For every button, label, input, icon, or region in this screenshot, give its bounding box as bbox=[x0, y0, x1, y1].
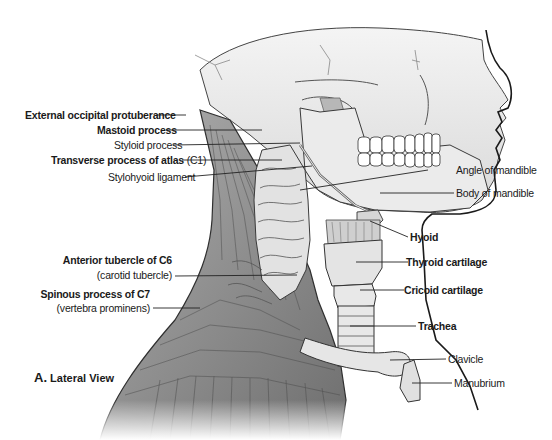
transverse-process-suffix: (C1) bbox=[184, 154, 206, 166]
label-vertebra-prominens: (vertebra prominens) bbox=[30, 302, 150, 314]
label-stylohyoid-ligament: Stylohyoid ligament bbox=[108, 171, 195, 183]
label-spinous-process-c7: Spinous process of C7 bbox=[30, 288, 150, 300]
label-clavicle: Clavicle bbox=[448, 353, 483, 365]
figure-caption: A. Lateral View bbox=[34, 370, 114, 385]
label-thyroid-cartilage: Thyroid cartilage bbox=[406, 256, 487, 268]
label-trachea: Trachea bbox=[418, 320, 456, 332]
label-transverse-process-of-atlas: Transverse process of atlas (C1) bbox=[51, 154, 206, 166]
transverse-process-text: Transverse process of atlas bbox=[51, 154, 184, 166]
label-cricoid-cartilage: Cricoid cartilage bbox=[404, 284, 483, 296]
label-hyoid: Hyoid bbox=[410, 231, 438, 243]
label-angle-of-mandible: Angle of mandible bbox=[456, 164, 537, 176]
thyroid-cartilage-shape bbox=[324, 240, 382, 286]
label-anterior-tubercle-c6: Anterior tubercle of C6 bbox=[60, 254, 172, 266]
label-body-of-mandible: Body of mandible bbox=[456, 187, 534, 199]
cricoid-cartilage-shape bbox=[334, 284, 376, 308]
label-mastoid-process: Mastoid process bbox=[97, 124, 177, 136]
label-carotid-tubercle: (carotid tubercle) bbox=[60, 269, 172, 281]
caption-text: Lateral View bbox=[50, 372, 114, 384]
label-styloid-process: Styloid process bbox=[114, 139, 182, 151]
label-manubrium: Manubrium bbox=[454, 377, 505, 389]
caption-letter: A. bbox=[34, 370, 47, 385]
label-external-occipital-protuberance: External occipital protuberance bbox=[25, 109, 176, 121]
